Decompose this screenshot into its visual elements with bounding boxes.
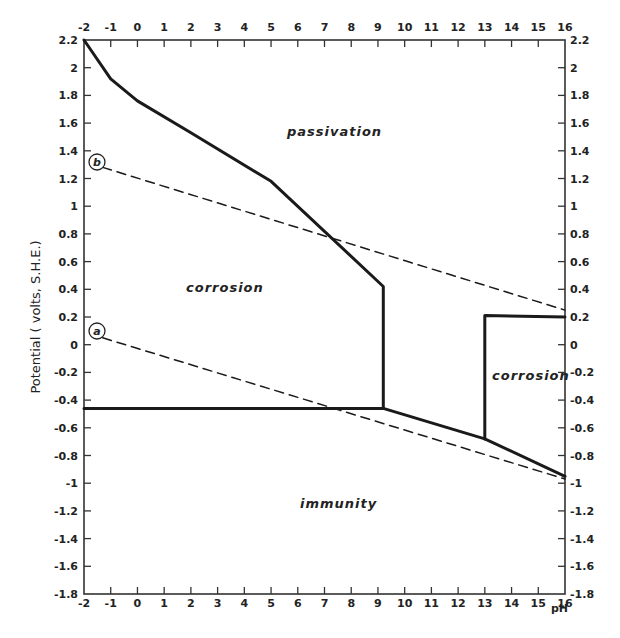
y-tick-label-left: -1 [66,477,78,490]
marker-a-text: a [93,325,100,338]
x-tick-label-bottom: 6 [294,597,302,610]
y-tick-label-right: 1.6 [570,117,590,130]
x-tick-label-bottom: 0 [134,597,142,610]
x-tick-label-top: 6 [294,21,302,34]
x-axis-unit-label: pH [551,602,568,615]
x-tick-label-top: 1 [160,21,168,34]
x-tick-label-bottom: -1 [105,597,117,610]
y-tick-label-left: -0.8 [54,450,78,463]
y-tick-label-left: 1.4 [59,145,79,158]
x-tick-label-bottom: 3 [214,597,222,610]
y-tick-label-left: 0.8 [59,228,79,241]
y-tick-label-left: 2.2 [59,34,79,47]
marker-b: b [89,154,105,170]
y-tick-label-right: 0.2 [570,311,590,324]
x-tick-label-bottom: 9 [374,597,382,610]
y-tick-label-right: -1.8 [570,588,594,601]
y-tick-label-right: 1.2 [570,173,590,186]
x-tick-label-top: 16 [557,21,573,34]
marker-b-text: b [93,156,101,169]
y-tick-label-left: 1.8 [59,89,79,102]
y-tick-label-right: 1.4 [570,145,590,158]
x-tick-label-bottom: 11 [424,597,439,610]
series-line-immunity-boundary [84,408,565,476]
y-tick-label-left: -1.8 [54,588,78,601]
x-tick-label-bottom: -2 [78,597,90,610]
y-tick-label-right: -0.6 [570,422,594,435]
x-tick-label-bottom: 13 [477,597,492,610]
y-tick-label-left: 1.6 [59,117,79,130]
x-tick-label-top: 3 [214,21,222,34]
region-passivation-label: passivation [286,124,382,139]
x-tick-label-bottom: 4 [241,597,249,610]
x-tick-label-top: 0 [134,21,142,34]
x-tick-label-top: 9 [374,21,382,34]
y-axis-title: Potential ( volts, S.H.E.) [28,240,43,393]
y-tick-label-left: -1.6 [54,560,78,573]
x-tick-label-top: 15 [531,21,546,34]
x-tick-label-top: 8 [347,21,355,34]
y-tick-label-right: 2.2 [570,34,590,47]
y-tick-label-left: 0.6 [59,256,79,269]
y-tick-label-right: 0.8 [570,228,590,241]
x-tick-label-top: 4 [241,21,249,34]
y-tick-label-right: 0 [570,339,578,352]
region-corrosion-right-label: corrosion [492,368,570,383]
y-tick-label-right: -0.2 [570,366,594,379]
x-tick-label-top: 10 [397,21,413,34]
y-tick-label-right: -0.4 [570,394,594,407]
x-tick-label-bottom: 7 [321,597,329,610]
y-tick-label-right: -1.6 [570,560,594,573]
y-tick-label-left: -1.4 [54,533,78,546]
x-tick-label-bottom: 12 [450,597,465,610]
y-tick-label-left: 2 [70,62,78,75]
y-tick-label-left: 1.2 [59,173,79,186]
y-tick-label-right: -0.8 [570,450,594,463]
y-tick-label-left: 1 [70,200,78,213]
y-tick-label-right: 2 [570,62,578,75]
x-tick-label-top: 12 [450,21,465,34]
marker-a: a [89,323,105,339]
x-tick-label-top: 5 [267,21,275,34]
y-tick-label-left: 0 [70,339,78,352]
region-corrosion-left-label: corrosion [186,280,264,295]
x-tick-label-top: 14 [504,21,520,34]
series-layer [84,40,565,479]
series-line-passivation-boundary [84,40,383,408]
y-tick-label-right: -1 [570,477,582,490]
y-tick-label-right: 0.4 [570,283,590,296]
x-tick-label-bottom: 2 [187,597,195,610]
x-tick-label-top: -1 [105,21,117,34]
x-tick-label-bottom: 10 [397,597,413,610]
y-tick-label-right: -1.4 [570,533,594,546]
pourbaix-diagram: -2-2-1-100112233445566778899101011111212… [0,0,620,638]
x-tick-label-top: 11 [424,21,439,34]
y-tick-label-left: -0.6 [54,422,78,435]
x-tick-label-bottom: 15 [531,597,546,610]
y-tick-label-left: -1.2 [54,505,78,518]
y-tick-label-right: 1 [570,200,578,213]
region-immunity-label: immunity [300,496,377,511]
x-tick-label-top: 7 [321,21,329,34]
y-tick-label-right: -1.2 [570,505,594,518]
series-line-b [103,167,565,310]
x-tick-label-bottom: 8 [347,597,355,610]
x-tick-label-top: 2 [187,21,195,34]
x-tick-label-bottom: 5 [267,597,275,610]
x-tick-label-bottom: 14 [504,597,520,610]
x-tick-label-top: 13 [477,21,492,34]
y-tick-label-right: 0.6 [570,256,590,269]
y-tick-label-left: 0.2 [59,311,79,324]
y-tick-label-left: -0.4 [54,394,78,407]
y-tick-label-left: 0.4 [59,283,79,296]
y-tick-label-left: -0.2 [54,366,78,379]
x-tick-label-bottom: 1 [160,597,168,610]
y-tick-label-right: 1.8 [570,89,590,102]
x-tick-label-top: -2 [78,21,90,34]
